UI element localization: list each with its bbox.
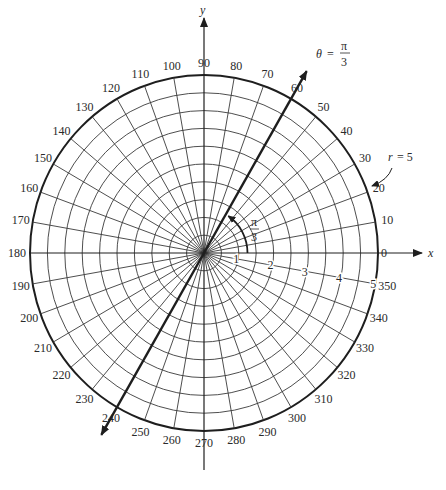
angle-label: 50 [318, 100, 330, 114]
angle-label: 280 [227, 433, 245, 447]
radius-label: 4 [336, 271, 342, 285]
angle-label: 230 [75, 392, 93, 406]
x-axis-label: x [427, 246, 434, 260]
arc-pi-label: π [251, 215, 257, 229]
ray-den-label: 3 [341, 55, 347, 69]
angle-label: 100 [163, 59, 181, 73]
angle-label: 0 [381, 246, 387, 260]
angle-label: 150 [34, 151, 52, 165]
angle-label: 40 [340, 124, 352, 138]
angle-label: 70 [262, 67, 274, 81]
angle-label: 180 [8, 246, 26, 260]
angle-label: 270 [195, 436, 213, 450]
angle-label: 140 [53, 124, 71, 138]
angle-label: 290 [259, 425, 277, 439]
angle-label: 80 [230, 59, 242, 73]
y-axis-label: y [199, 3, 206, 17]
radius-label: 5 [370, 277, 376, 291]
angle-label: 210 [34, 341, 52, 355]
angle-label: 110 [132, 67, 150, 81]
angle-label: 330 [356, 341, 374, 355]
angle-label: 90 [198, 56, 210, 70]
angle-label: 10 [381, 213, 393, 227]
ray-equals-label: = [327, 47, 334, 61]
angle-label: 170 [12, 213, 30, 227]
angle-label: 130 [75, 100, 93, 114]
angle-label: 320 [337, 368, 355, 382]
angle-label: 160 [20, 181, 38, 195]
circle-r-label: r [388, 150, 393, 164]
angle-label: 220 [53, 368, 71, 382]
radius-label: 1 [233, 252, 239, 266]
radius-label: 2 [268, 258, 274, 272]
angle-label: 300 [288, 411, 306, 425]
angle-label: 200 [20, 311, 38, 325]
angle-label: 350 [378, 279, 396, 293]
ray-pi-label: π [341, 39, 347, 53]
angle-label: 260 [163, 433, 181, 447]
angle-label: 310 [315, 392, 333, 406]
polar-grid-diagram: 0102030405060708090100110120130140150160… [0, 0, 446, 490]
circle-eq-label: = 5 [397, 150, 413, 164]
angle-label: 250 [131, 425, 149, 439]
radius-label: 3 [302, 265, 308, 279]
angle-label: 340 [370, 311, 388, 325]
arc-den-label: 3 [251, 230, 257, 244]
angle-label: 120 [102, 81, 120, 95]
angle-label: 30 [359, 151, 371, 165]
ray-theta-label: θ [316, 47, 322, 61]
angle-arc [228, 216, 247, 253]
angle-label: 190 [12, 279, 30, 293]
